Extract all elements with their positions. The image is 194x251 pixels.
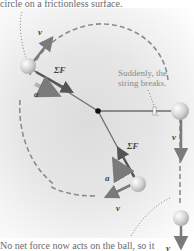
diagram: circle on a frictionless surface.: [0, 0, 194, 251]
label-a-1: a⃗: [34, 90, 46, 99]
label-v-4: v⃗: [166, 244, 177, 251]
note-line-2: string breaks.: [118, 78, 178, 88]
center-pivot: [95, 108, 101, 114]
break-point: [153, 107, 156, 115]
caption-bottom: No net force now acts on the ball, so it: [0, 240, 154, 251]
ball-position-3: [130, 176, 146, 192]
ball-position-2: [171, 102, 189, 120]
motion-diagram: [0, 0, 194, 251]
label-a-2: a⃗: [105, 174, 117, 183]
ball-position-4: [173, 210, 189, 226]
label-v-2: v⃗: [172, 133, 183, 142]
label-sum-f-2: ΣF⃗: [127, 142, 146, 151]
label-v-3: v⃗: [116, 204, 127, 213]
break-note: Suddenly, the string breaks.: [118, 68, 178, 88]
label-v-1: v⃗: [38, 28, 49, 37]
ball-position-1: [20, 58, 36, 74]
pointer-top: [20, 12, 26, 58]
label-sum-f-1: ΣF⃗: [54, 66, 73, 75]
note-line-1: Suddenly, the: [118, 68, 178, 78]
pointer-bottom: [131, 198, 170, 236]
